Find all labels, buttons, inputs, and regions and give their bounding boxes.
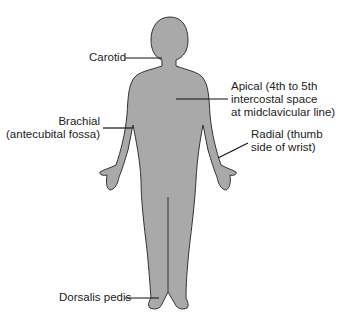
label-brachial-line2: (antecubital fossa) — [6, 128, 100, 141]
label-brachial-line1: Brachial — [6, 115, 100, 128]
label-radial-line1: Radial (thumb — [251, 128, 323, 141]
label-radial: Radial (thumb side of wrist) — [251, 128, 323, 154]
label-apical-line3: at midclavicular line) — [231, 106, 335, 119]
label-apical-line1: Apical (4th to 5th — [231, 80, 335, 93]
label-apical: Apical (4th to 5th intercostal space at … — [231, 80, 335, 119]
body-figure — [0, 0, 341, 323]
label-apical-line2: intercostal space — [231, 93, 335, 106]
label-carotid: Carotid — [89, 51, 126, 64]
label-radial-line2: side of wrist) — [251, 141, 323, 154]
radial-leader-line — [218, 143, 248, 158]
label-brachial: Brachial (antecubital fossa) — [6, 115, 100, 141]
label-dorsalis-pedis: Dorsalis pedis — [59, 291, 131, 304]
